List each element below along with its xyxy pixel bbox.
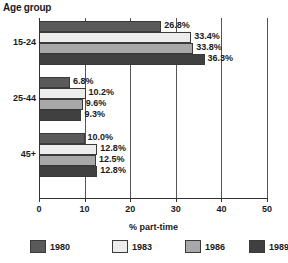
x-axis-tick [221, 198, 222, 202]
plot-area: 26.8%33.4%33.8%36.3%6.8%10.2%9.6%9.3%10.… [39, 18, 267, 198]
bar-row: 9.6% [39, 99, 267, 110]
bar-1980-45+ [39, 133, 85, 144]
bar-value-label: 36.3% [208, 53, 234, 64]
bar-1980-25-44 [39, 77, 70, 88]
bar-value-label: 6.8% [73, 76, 94, 87]
x-axis-tick [130, 198, 131, 202]
bar-row: 9.3% [39, 110, 267, 121]
bar-row: 33.4% [39, 32, 267, 43]
legend-swatch-icon [249, 240, 265, 253]
bar-row: 12.8% [39, 166, 267, 177]
x-axis-tick-label: 0 [36, 204, 41, 214]
bar-1980-15-24 [39, 21, 161, 32]
bar-row: 26.8% [39, 21, 267, 32]
x-axis-tick [176, 198, 177, 202]
legend-item-1989[interactable]: 1989 [249, 240, 288, 253]
legend-swatch-icon [112, 240, 128, 253]
bar-value-label: 12.8% [100, 165, 126, 176]
bar-1986-45+ [39, 155, 96, 166]
page-title: Age group [3, 2, 51, 13]
bar-1989-45+ [39, 166, 97, 177]
legend-item-1983[interactable]: 1983 [112, 240, 152, 253]
x-axis-tick [267, 198, 268, 202]
category-label-25-44: 25-44 [0, 93, 36, 103]
bar-value-label: 33.4% [194, 31, 220, 42]
bar-row: 10.0% [39, 133, 267, 144]
bar-1983-25-44 [39, 88, 86, 99]
bar-row: 12.5% [39, 155, 267, 166]
legend-label: 1980 [50, 242, 70, 252]
bar-value-label: 33.8% [196, 42, 222, 53]
bar-1983-15-24 [39, 32, 191, 43]
legend-label: 1986 [205, 242, 225, 252]
category-label-15-24: 15-24 [0, 37, 36, 47]
chart-legend: 1980198319861989 [0, 240, 288, 263]
legend-swatch-icon [30, 240, 46, 253]
bar-value-label: 12.8% [100, 143, 126, 154]
legend-item-1980[interactable]: 1980 [30, 240, 70, 253]
bar-row: 10.2% [39, 88, 267, 99]
y-axis-line [39, 18, 40, 198]
x-axis-tick [85, 198, 86, 202]
bar-value-label: 9.3% [84, 109, 105, 120]
bar-value-label: 26.8% [164, 20, 190, 31]
x-axis-tick-label: 40 [216, 204, 226, 214]
legend-label: 1983 [132, 242, 152, 252]
x-axis-label: % part-time [39, 222, 268, 232]
x-axis-tick-label: 10 [80, 204, 90, 214]
category-label-45+: 45+ [0, 149, 36, 159]
bar-1986-25-44 [39, 99, 83, 110]
legend-label: 1989 [269, 242, 288, 252]
legend-swatch-icon [185, 240, 201, 253]
gridline [267, 18, 268, 198]
x-axis-tick [39, 198, 40, 202]
bar-row: 6.8% [39, 77, 267, 88]
x-axis-tick-label: 20 [125, 204, 135, 214]
x-axis-line [39, 198, 268, 199]
bar-1989-15-24 [39, 54, 205, 65]
bar-row: 12.8% [39, 144, 267, 155]
bar-1986-15-24 [39, 43, 193, 54]
bar-row: 36.3% [39, 54, 267, 65]
bar-1989-25-44 [39, 110, 81, 121]
bar-value-label: 12.5% [99, 154, 125, 165]
bar-value-label: 9.6% [86, 98, 107, 109]
x-axis-tick-label: 50 [262, 204, 272, 214]
bar-value-label: 10.2% [89, 87, 115, 98]
bar-1983-45+ [39, 144, 97, 155]
legend-item-1986[interactable]: 1986 [185, 240, 225, 253]
x-axis-tick-label: 30 [171, 204, 181, 214]
bar-value-label: 10.0% [88, 132, 114, 143]
